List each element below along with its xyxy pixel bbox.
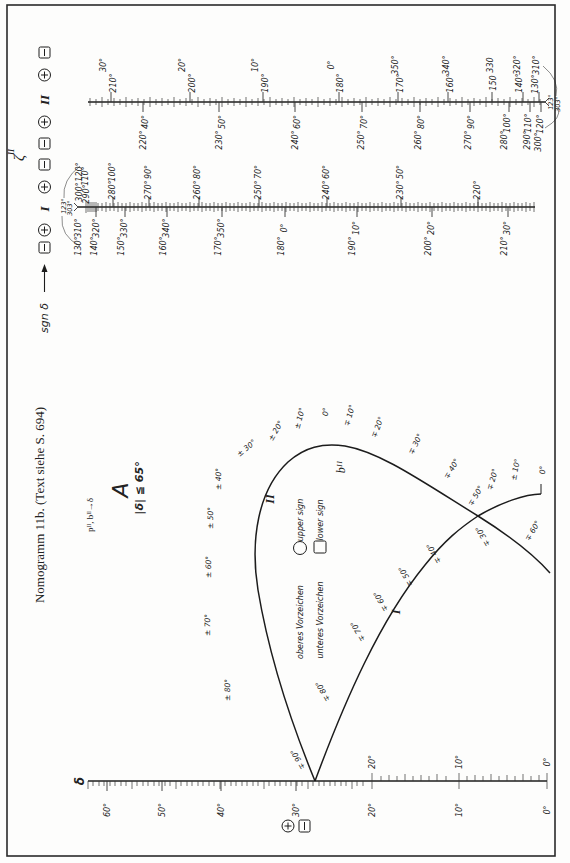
- svg-text:130°: 130°: [531, 74, 540, 93]
- svg-text:140°: 140°: [515, 73, 524, 92]
- svg-text:320°: 320°: [92, 218, 101, 237]
- svg-text:60°: 60°: [103, 803, 112, 817]
- region-label-A: A: [108, 482, 133, 499]
- legend: oberes Vorzeichen upper sign unteres Vor…: [294, 499, 327, 659]
- sgn-delta-label: sgn δ: [38, 303, 51, 333]
- svg-text:300°: 300°: [534, 132, 543, 151]
- page-subtitle: pᴵᴵ, bᴵᴵ→δ: [85, 498, 95, 532]
- scale-I: 120° 110° 100° 90° 80° 70° 60° 50° 300° …: [60, 162, 535, 255]
- svg-text:140°: 140°: [90, 236, 99, 255]
- svg-text:± 80°: ± 80°: [223, 679, 232, 701]
- nomogram-page: .ink { stroke: #1c1c1c; fill: none; } .t…: [0, 0, 570, 863]
- svg-text:230°: 230°: [215, 130, 224, 149]
- svg-text:20°: 20°: [427, 221, 436, 235]
- svg-text:60°: 60°: [322, 165, 331, 179]
- svg-text:180°: 180°: [277, 236, 286, 255]
- svg-text:210°: 210°: [500, 236, 509, 255]
- svg-text:± 10°: ± 10°: [509, 458, 522, 481]
- svg-text:310°: 310°: [74, 218, 83, 237]
- arrow-up-icon: [42, 264, 48, 292]
- svg-text:240°: 240°: [322, 180, 331, 199]
- svg-text:10°: 10°: [455, 803, 464, 817]
- svg-text:30°: 30°: [292, 803, 301, 817]
- svg-text:350°: 350°: [217, 218, 226, 237]
- sign-marker-minus-icon: [39, 138, 50, 149]
- svg-text:160°: 160°: [446, 73, 455, 92]
- svg-text:350°: 350°: [391, 55, 400, 74]
- svg-text:20°: 20°: [368, 755, 377, 769]
- scale-II: 30° 20° 10° 0° 350° 340° 330 320° 310° 2…: [88, 55, 562, 151]
- svg-text:200°: 200°: [424, 236, 433, 255]
- svg-text:0°: 0°: [327, 60, 336, 69]
- svg-text:± 20°: ± 20°: [266, 419, 285, 443]
- svg-text:∓ 20°: ∓ 20°: [370, 415, 386, 439]
- svg-text:∓ 60°: ∓ 60°: [371, 589, 390, 613]
- svg-text:240°: 240°: [291, 130, 300, 149]
- svg-text:290°: 290°: [82, 184, 91, 203]
- sign-marker-minus-icon: [39, 47, 50, 58]
- svg-text:130°: 130°: [74, 236, 83, 255]
- svg-text:± 50°: ± 50°: [206, 507, 215, 529]
- svg-text:270°: 270°: [144, 180, 153, 199]
- svg-text:50°: 50°: [158, 803, 167, 817]
- svg-text:0°: 0°: [321, 407, 331, 417]
- sign-marker-plus-icon: [39, 69, 51, 81]
- svg-text:20°: 20°: [178, 58, 187, 72]
- scale-I-marker-label: I: [37, 206, 52, 213]
- svg-text:110°: 110°: [524, 113, 533, 132]
- svg-text:0°: 0°: [543, 757, 552, 766]
- svg-text:∓ 30°: ∓ 30°: [407, 432, 425, 456]
- delta-scale: δ 60° 50° 40° 30° 20° 10° 0° 20° 10° 0°: [73, 755, 552, 832]
- sign-marker-minus-icon: [39, 159, 50, 170]
- svg-text:50°: 50°: [396, 165, 405, 179]
- svg-text:190°: 190°: [348, 236, 357, 255]
- svg-text:210°: 210°: [109, 73, 118, 92]
- legend-upper-en: upper sign: [296, 499, 305, 542]
- svg-text:220°: 220°: [139, 130, 148, 149]
- svg-text:90°: 90°: [467, 115, 476, 129]
- svg-text:∓ 40°: ∓ 40°: [442, 457, 461, 481]
- svg-text:90°: 90°: [144, 165, 153, 179]
- sign-marker-minus-icon: [39, 242, 50, 253]
- legend-upper-de: oberes Vorzeichen: [296, 585, 305, 659]
- delta-plus-marker-icon: [282, 820, 294, 832]
- lower-sign-square-icon: [314, 541, 326, 553]
- svg-text:30°: 30°: [503, 221, 512, 235]
- svg-text:∓ 80°: ∓ 80°: [313, 679, 332, 703]
- zeta-superscript: II: [7, 148, 16, 156]
- svg-text:20°: 20°: [368, 803, 377, 817]
- svg-text:180°: 180°: [336, 73, 345, 92]
- svg-text:± 60°: ± 60°: [204, 556, 213, 578]
- svg-text:70°: 70°: [360, 115, 369, 129]
- svg-text:310°: 310°: [532, 55, 541, 74]
- svg-text:40°: 40°: [217, 803, 226, 817]
- svg-text:± 40°: ± 40°: [214, 468, 223, 490]
- svg-text:220°: 220°: [473, 180, 482, 199]
- svg-text:250°: 250°: [357, 130, 366, 149]
- svg-text:280°: 280°: [500, 130, 509, 149]
- svg-text:100°: 100°: [108, 162, 117, 181]
- svg-text:60°: 60°: [293, 115, 302, 129]
- svg-text:200°: 200°: [188, 73, 197, 92]
- delta-minus-marker-icon: [299, 820, 310, 832]
- sign-marker-plus-icon: [39, 224, 51, 236]
- svg-text:320°: 320°: [513, 55, 522, 74]
- sign-column: ζ II II I sgn δ: [7, 47, 52, 333]
- svg-text:± 70°: ± 70°: [203, 614, 212, 636]
- legend-lower-en: lower sign: [316, 500, 325, 541]
- svg-text:100°: 100°: [503, 113, 512, 132]
- svg-text:170°: 170°: [396, 73, 405, 92]
- svg-text:160°: 160°: [159, 236, 168, 255]
- svg-text:± 10°: ± 10°: [292, 406, 306, 430]
- upper-sign-circle-icon: [294, 542, 307, 555]
- svg-text:230°: 230°: [396, 180, 405, 199]
- svg-text:120°: 120°: [536, 114, 545, 133]
- svg-text:303°: 303°: [554, 96, 562, 112]
- legend-lower-de: unteres Vorzeichen: [316, 581, 325, 658]
- svg-text:290°: 290°: [523, 130, 532, 149]
- svg-text:340°: 340°: [442, 55, 451, 74]
- svg-text:10°: 10°: [352, 221, 361, 235]
- svg-text:80°: 80°: [417, 115, 426, 129]
- page-title: Nomogramm 11b. (Text siehe S. 694): [32, 407, 47, 603]
- svg-text:30°: 30°: [99, 58, 108, 72]
